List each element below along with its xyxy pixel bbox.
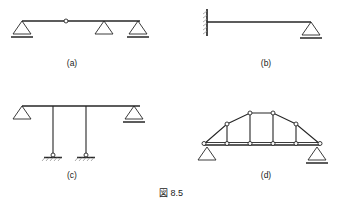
truss-node xyxy=(225,142,229,146)
triangle-icon xyxy=(13,21,31,34)
panel-b-label: (b) xyxy=(261,58,272,68)
figure-container: (a) (b) xyxy=(0,0,341,208)
triangle-icon xyxy=(13,106,31,119)
panel-c-support-left xyxy=(13,106,31,119)
panel-a-internal-hinge xyxy=(64,19,68,23)
ground-hatch xyxy=(75,158,78,162)
truss-node xyxy=(294,122,298,126)
truss-node xyxy=(248,111,252,115)
truss-node xyxy=(271,111,275,115)
panel-a: (a) xyxy=(11,19,149,68)
panel-d-top-chord xyxy=(204,113,320,144)
panel-b: (b) xyxy=(203,9,322,68)
triangle-icon xyxy=(302,22,320,35)
panel-c-label: (c) xyxy=(67,170,77,180)
triangle-icon xyxy=(129,21,147,34)
truss-node xyxy=(248,142,252,146)
panel-d-label: (d) xyxy=(261,170,272,180)
figure-caption: 図 8.5 xyxy=(159,188,183,198)
panel-d: (d) xyxy=(198,111,328,180)
panel-c: (c) xyxy=(13,106,145,180)
truss-node xyxy=(225,122,229,126)
panel-a-support-middle xyxy=(95,21,113,34)
panel-c-column-base-right xyxy=(75,153,95,161)
panel-d-support-left xyxy=(198,147,216,160)
pin-node-icon xyxy=(84,153,88,157)
panel-a-support-right xyxy=(127,21,149,37)
panel-b-fixed-wall-support xyxy=(203,9,207,36)
structural-diagram-canvas: (a) (b) xyxy=(0,0,341,208)
ground-hatch xyxy=(42,158,45,162)
panel-b-support-right xyxy=(300,22,322,38)
truss-node xyxy=(202,142,206,146)
triangle-icon xyxy=(95,21,113,34)
panel-a-support-left xyxy=(11,21,33,37)
triangle-icon xyxy=(198,147,216,160)
panel-a-label: (a) xyxy=(67,58,78,68)
pin-node-icon xyxy=(51,153,55,157)
truss-node xyxy=(318,142,322,146)
triangle-icon xyxy=(125,106,143,119)
panel-c-support-right xyxy=(123,106,145,122)
panel-d-support-right xyxy=(306,147,328,163)
truss-node xyxy=(271,142,275,146)
panel-c-column-base-left xyxy=(42,153,62,161)
triangle-icon xyxy=(308,147,326,160)
truss-node xyxy=(294,142,298,146)
